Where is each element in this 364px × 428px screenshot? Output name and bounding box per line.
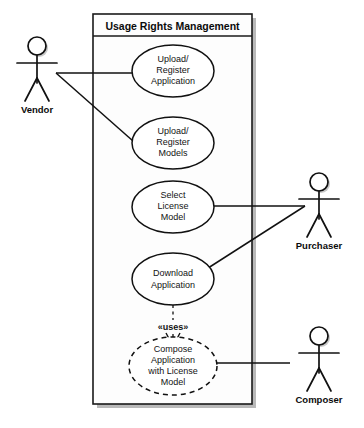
actor-vendor[interactable]: Vendor bbox=[17, 37, 57, 115]
use-case-label-line-1: Compose bbox=[154, 344, 193, 354]
use-case-diagram: Usage Rights Management Upload/ Register… bbox=[0, 0, 364, 428]
actor-leg-left-icon bbox=[25, 78, 37, 101]
system-boundary-title: Usage Rights Management bbox=[105, 20, 240, 32]
actor-head-icon bbox=[28, 37, 46, 55]
use-case-label-line-3: Model bbox=[161, 212, 186, 222]
use-case-label-line-4: Model bbox=[161, 377, 186, 387]
actor-leg-left-icon bbox=[307, 214, 319, 237]
use-case-label-line-3: Models bbox=[158, 148, 188, 158]
diagram-canvas: Usage Rights Management Upload/ Register… bbox=[0, 0, 364, 428]
use-case-ellipse bbox=[132, 253, 214, 305]
use-case-label-line-2: License bbox=[157, 201, 188, 211]
actor-leg-right-icon bbox=[37, 78, 49, 101]
use-case-download-application[interactable]: Download Application bbox=[132, 253, 214, 305]
actor-label: Composer bbox=[296, 394, 343, 405]
use-case-label-line-2: Application bbox=[151, 280, 195, 290]
actor-composer[interactable]: Composer bbox=[296, 327, 343, 405]
actor-leg-right-icon bbox=[319, 368, 331, 391]
actor-purchaser[interactable]: Purchaser bbox=[296, 173, 343, 251]
actor-label: Purchaser bbox=[296, 240, 343, 251]
use-case-label-line-3: Application bbox=[151, 76, 195, 86]
use-case-select-license-model[interactable]: Select License Model bbox=[132, 181, 214, 233]
use-case-compose-application-with-license-model[interactable]: Compose Application with License Model bbox=[129, 337, 217, 395]
use-case-label-line-2: Register bbox=[156, 65, 190, 75]
actor-head-icon bbox=[310, 173, 328, 191]
use-case-label-line-2: Application bbox=[151, 355, 195, 365]
use-case-upload-register-application[interactable]: Upload/ Register Application bbox=[132, 45, 214, 97]
use-case-label-line-1: Select bbox=[160, 190, 186, 200]
use-case-label-line-2: Register bbox=[156, 137, 190, 147]
actor-label: Vendor bbox=[21, 104, 54, 115]
actor-head-icon bbox=[310, 327, 328, 345]
use-case-label-line-1: Upload/ bbox=[157, 126, 189, 136]
actor-leg-left-icon bbox=[307, 368, 319, 391]
uses-stereotype-label: «uses» bbox=[158, 322, 189, 332]
use-case-label-line-3: with License bbox=[147, 366, 198, 376]
actor-leg-right-icon bbox=[319, 214, 331, 237]
use-case-upload-register-models[interactable]: Upload/ Register Models bbox=[132, 117, 214, 169]
use-case-label-line-1: Download bbox=[153, 268, 193, 278]
use-case-label-line-1: Upload/ bbox=[157, 54, 189, 64]
